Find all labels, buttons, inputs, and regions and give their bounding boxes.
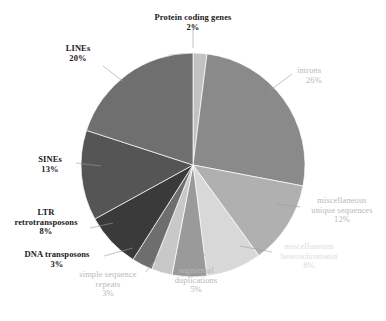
label-dna-transposons: DNA transposons 3% bbox=[10, 250, 104, 269]
label-dna-transposons-pct: 3% bbox=[10, 260, 104, 270]
label-introns: introns 26% bbox=[297, 66, 322, 85]
label-segmental-duplications: segmental duplications 5% bbox=[152, 266, 240, 295]
pie-chart-figure: Protein coding genes 2% introns 26% misc… bbox=[0, 0, 386, 321]
label-lines-pct: 20% bbox=[52, 54, 104, 64]
label-sines-pct: 13% bbox=[24, 165, 76, 175]
leader-line-lines bbox=[103, 66, 124, 82]
label-lines: LINEs 20% bbox=[52, 44, 104, 63]
label-sines: SINEs 13% bbox=[24, 155, 76, 174]
label-misc-unique-pct: 12% bbox=[299, 215, 385, 225]
leader-line-introns bbox=[268, 74, 292, 92]
label-miscellaneous-unique-sequences: miscellaneous unique sequences 12% bbox=[299, 196, 385, 225]
label-segmental-pct: 5% bbox=[152, 285, 240, 295]
pie-slice-introns bbox=[193, 54, 305, 186]
label-misc-hetero-pct: 8% bbox=[254, 261, 364, 271]
label-introns-pct: 26% bbox=[297, 76, 322, 86]
label-protein-coding-genes-pct: 2% bbox=[128, 23, 258, 33]
label-ltr-pct: 8% bbox=[2, 227, 90, 237]
label-simple-repeats-pct: 3% bbox=[62, 289, 154, 299]
label-ltr-retrotransposons: LTR retrotransposons 8% bbox=[2, 208, 90, 237]
label-protein-coding-genes: Protein coding genes 2% bbox=[128, 13, 258, 32]
label-simple-sequence-repeats: simple sequence repeats 3% bbox=[62, 270, 154, 299]
label-miscellaneous-heterochromatin: miscellaneous heterochromatin 8% bbox=[254, 242, 364, 271]
